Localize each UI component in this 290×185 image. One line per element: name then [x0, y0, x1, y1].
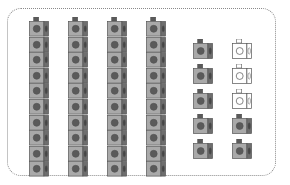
rod-cube-icon — [107, 83, 127, 99]
rod-cube-icon — [107, 37, 127, 53]
rod-cube-icon — [68, 68, 88, 84]
unit-cube-icon — [193, 114, 215, 136]
rod-cube-icon — [68, 52, 88, 68]
unit-cube-icon — [193, 64, 215, 86]
rod-cube-icon — [68, 161, 88, 177]
rod-cube-icon — [68, 115, 88, 131]
rod-cube-icon — [146, 52, 166, 68]
rod-cube-icon — [29, 17, 49, 37]
rod-cube-icon — [146, 130, 166, 146]
rod-cube-icon — [68, 37, 88, 53]
rod-cube-icon — [29, 130, 49, 146]
rod-cube-icon — [146, 146, 166, 162]
rod-cube-icon — [68, 146, 88, 162]
rod-cube-icon — [107, 17, 127, 37]
tens-rod — [29, 17, 49, 177]
tens-rod — [107, 17, 127, 177]
rod-cube-icon — [146, 37, 166, 53]
rod-cube-icon — [29, 161, 49, 177]
rod-cube-icon — [146, 115, 166, 131]
rod-cube-icon — [29, 83, 49, 99]
rod-cube-icon — [68, 17, 88, 37]
rod-cube-icon — [107, 130, 127, 146]
tens-rod — [68, 17, 88, 177]
rod-cube-icon — [107, 146, 127, 162]
rod-cube-icon — [146, 17, 166, 37]
rod-cube-icon — [29, 146, 49, 162]
rod-cube-icon — [107, 99, 127, 115]
rod-cube-icon — [107, 161, 127, 177]
rod-cube-icon — [29, 115, 49, 131]
rod-cube-icon — [146, 68, 166, 84]
unit-cube-icon — [232, 139, 254, 161]
rod-cube-icon — [146, 161, 166, 177]
rod-cube-icon — [29, 37, 49, 53]
rod-cube-icon — [68, 130, 88, 146]
unit-cube-icon — [193, 89, 215, 111]
rod-cube-icon — [146, 99, 166, 115]
rod-cube-icon — [29, 68, 49, 84]
rod-cube-icon — [29, 99, 49, 115]
empty-unit-cube-icon — [232, 64, 254, 86]
rod-cube-icon — [68, 83, 88, 99]
rod-cube-icon — [68, 99, 88, 115]
empty-unit-cube-icon — [232, 39, 254, 61]
unit-cube-icon — [232, 114, 254, 136]
rod-cube-icon — [29, 52, 49, 68]
empty-unit-cube-icon — [232, 89, 254, 111]
unit-cube-icon — [193, 39, 215, 61]
tens-rod — [146, 17, 166, 177]
rod-cube-icon — [146, 83, 166, 99]
rod-cube-icon — [107, 115, 127, 131]
rod-cube-icon — [107, 52, 127, 68]
unit-cube-icon — [193, 139, 215, 161]
rod-cube-icon — [107, 68, 127, 84]
